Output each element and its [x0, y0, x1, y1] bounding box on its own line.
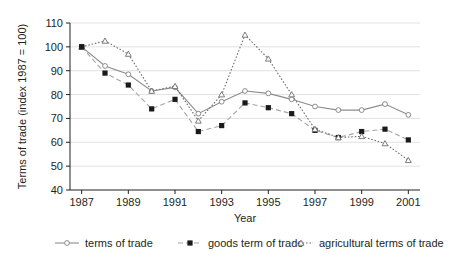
data-point-marker [243, 89, 248, 94]
origin-marker [79, 44, 84, 49]
data-point-marker [289, 111, 294, 116]
y-tick-label-40: 40 [51, 184, 63, 196]
y-tick-label-80: 80 [51, 89, 63, 101]
data-point-marker [65, 241, 70, 246]
data-point-marker [383, 102, 388, 107]
data-point-marker [102, 71, 107, 76]
data-point-marker [196, 111, 201, 116]
y-axis-title: Terms of trade (index 1987 = 100) [16, 24, 28, 189]
x-tick-label-1997: 1997 [303, 196, 327, 208]
data-point-marker [219, 99, 224, 104]
x-tick-label-1991: 1991 [163, 196, 187, 208]
data-point-marker [219, 123, 224, 128]
data-point-marker [172, 97, 177, 102]
x-tick-label-1995: 1995 [256, 196, 280, 208]
chart-background [0, 0, 456, 265]
data-point-marker [149, 106, 154, 111]
data-point-marker [313, 104, 318, 109]
y-tick-label-60: 60 [51, 136, 63, 148]
data-point-marker [196, 129, 201, 134]
x-tick-label-2001: 2001 [396, 196, 420, 208]
x-tick-label-1987: 1987 [69, 196, 93, 208]
legend-label-2: agricultural terms of trade [319, 237, 444, 249]
data-point-marker [126, 82, 131, 87]
data-point-marker [242, 100, 247, 105]
data-point-marker [103, 64, 108, 69]
legend-label-0: terms of trade [85, 237, 153, 249]
x-tick-label-1989: 1989 [116, 196, 140, 208]
data-point-marker [266, 105, 271, 110]
data-point-marker [266, 91, 271, 96]
data-point-marker [406, 137, 411, 142]
data-point-marker [126, 72, 131, 77]
data-point-marker [406, 112, 411, 117]
chart-figure: 4050607080901001101987198919911993199519… [0, 0, 456, 265]
y-tick-label-100: 100 [45, 41, 63, 53]
data-point-marker [289, 97, 294, 102]
y-tick-label-50: 50 [51, 160, 63, 172]
data-point-marker [336, 108, 341, 113]
y-tick-label-110: 110 [45, 17, 63, 29]
data-point-marker [359, 108, 364, 113]
x-axis-title: Year [234, 212, 257, 224]
data-point-marker [382, 127, 387, 132]
x-tick-label-1999: 1999 [349, 196, 373, 208]
x-tick-label-1993: 1993 [209, 196, 233, 208]
y-tick-label-90: 90 [51, 65, 63, 77]
data-point-marker [187, 240, 192, 245]
terms-of-trade-line-chart: 4050607080901001101987198919911993199519… [0, 0, 456, 265]
y-tick-label-70: 70 [51, 112, 63, 124]
